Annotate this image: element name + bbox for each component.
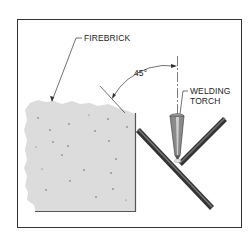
angle-arrowhead-right [171,64,177,68]
welding-torch-label-line2: TORCH [190,97,221,106]
welding-torch-label-line1: WELDING [190,87,230,96]
firebrick-leader-line [52,38,82,101]
angle-arrowhead-left [112,93,116,99]
welding-torch [170,114,184,163]
short-rod-highlight [180,118,225,163]
torch-leader-line [180,91,188,114]
firebrick-block [24,100,135,212]
angle-label: 45° [134,69,147,78]
firebrick-label: FIREBRICK [84,34,130,43]
